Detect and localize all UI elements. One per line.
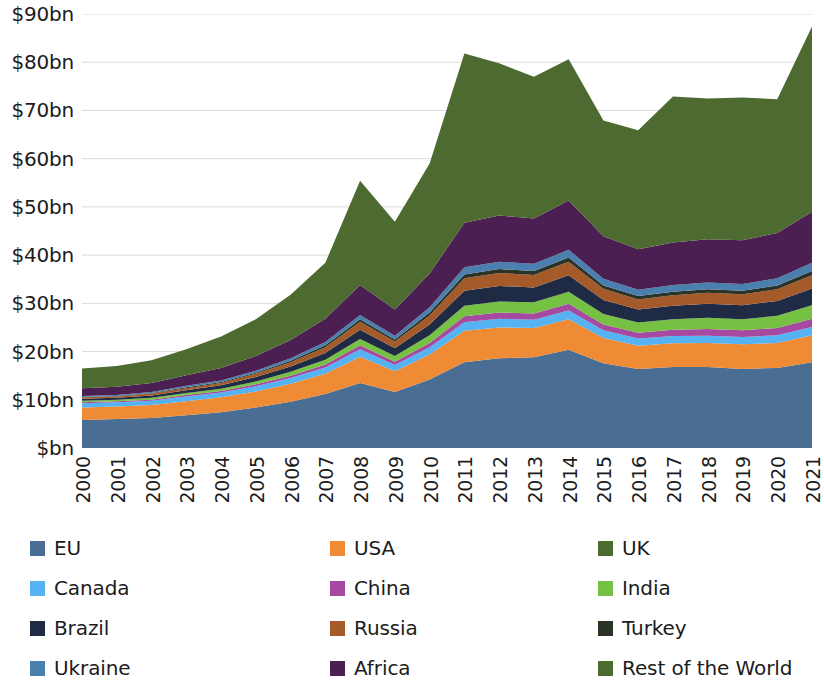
legend-item-label: China: [354, 576, 411, 600]
legend-swatch-icon: [598, 581, 613, 596]
legend-swatch-icon: [598, 661, 613, 676]
x-axis-tick: 2013: [524, 456, 546, 504]
y-axis: $bn$10bn$20bn$30bn$40bn$50bn$60bn$70bn$8…: [0, 0, 82, 460]
legend-item-label: Turkey: [622, 616, 687, 640]
x-axis-tick: 2018: [698, 456, 720, 504]
y-axis-tick: $80bn: [11, 50, 74, 74]
y-axis-tick: $50bn: [11, 195, 74, 219]
legend-item[interactable]: Brazil: [30, 608, 330, 648]
y-axis-tick: $40bn: [11, 243, 74, 267]
legend-item-label: Russia: [354, 616, 418, 640]
plot-area: [82, 14, 812, 448]
x-axis-tick: 2001: [107, 456, 129, 504]
x-axis-tick: 2014: [559, 456, 581, 504]
legend-item[interactable]: India: [598, 568, 800, 608]
x-axis: 2000200120022003200420052006200720082009…: [82, 452, 812, 522]
legend-swatch-icon: [30, 541, 45, 556]
y-axis-tick: $60bn: [11, 147, 74, 171]
x-axis-tick: 2020: [767, 456, 789, 504]
x-axis-tick: 2005: [246, 456, 268, 504]
y-axis-tick: $90bn: [11, 2, 74, 26]
legend-swatch-icon: [330, 621, 345, 636]
x-axis-tick: 2003: [176, 456, 198, 504]
legend-item-label: Canada: [54, 576, 130, 600]
legend-item-label: Ukraine: [54, 656, 131, 680]
legend-item[interactable]: Africa: [330, 648, 598, 688]
chart-legend: EUCanadaBrazilUkraineUSAChinaRussiaAfric…: [30, 528, 800, 688]
legend-item[interactable]: UK: [598, 528, 800, 568]
legend-swatch-icon: [598, 621, 613, 636]
x-axis-tick: 2012: [489, 456, 511, 504]
legend-item-label: Rest of the World: [622, 656, 792, 680]
x-axis-tick: 2016: [628, 456, 650, 504]
legend-item[interactable]: Turkey: [598, 608, 800, 648]
legend-swatch-icon: [30, 581, 45, 596]
legend-swatch-icon: [330, 541, 345, 556]
y-axis-tick: $bn: [37, 436, 75, 460]
x-axis-tick: 2007: [315, 456, 337, 504]
x-axis-tick: 2010: [420, 456, 442, 504]
legend-swatch-icon: [30, 661, 45, 676]
x-axis-tick: 2000: [72, 456, 94, 504]
legend-item[interactable]: China: [330, 568, 598, 608]
legend-swatch-icon: [598, 541, 613, 556]
legend-item-label: Brazil: [54, 616, 109, 640]
y-axis-tick: $10bn: [11, 388, 74, 412]
y-axis-tick: $20bn: [11, 340, 74, 364]
y-axis-tick: $30bn: [11, 291, 74, 315]
legend-item[interactable]: Ukraine: [30, 648, 330, 688]
y-axis-tick: $70bn: [11, 98, 74, 122]
x-axis-tick: 2017: [663, 456, 685, 504]
legend-item-label: Africa: [354, 656, 410, 680]
legend-item[interactable]: Russia: [330, 608, 598, 648]
legend-item[interactable]: Rest of the World: [598, 648, 800, 688]
legend-item[interactable]: Canada: [30, 568, 330, 608]
legend-swatch-icon: [330, 661, 345, 676]
x-axis-tick: 2019: [732, 456, 754, 504]
x-axis-tick: 2008: [350, 456, 372, 504]
legend-swatch-icon: [30, 621, 45, 636]
legend-item-label: India: [622, 576, 671, 600]
x-axis-tick: 2002: [142, 456, 164, 504]
legend-item-label: USA: [354, 536, 395, 560]
x-axis-tick: 2011: [454, 456, 476, 504]
legend-item-label: UK: [622, 536, 650, 560]
legend-item-label: EU: [54, 536, 81, 560]
legend-item[interactable]: USA: [330, 528, 598, 568]
x-axis-tick: 2009: [385, 456, 407, 504]
x-axis-tick: 2006: [281, 456, 303, 504]
x-axis-tick: 2015: [593, 456, 615, 504]
legend-swatch-icon: [330, 581, 345, 596]
x-axis-tick: 2021: [802, 456, 824, 504]
x-axis-tick: 2004: [211, 456, 233, 504]
legend-item[interactable]: EU: [30, 528, 330, 568]
